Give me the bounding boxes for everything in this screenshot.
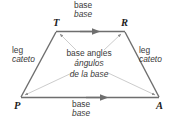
top-base-label-es: base — [74, 10, 92, 19]
base-angles-label: base angles ángulos de la base — [53, 48, 125, 79]
bottom-base-label-es: base — [72, 109, 90, 118]
base-angles-label-es-line1: ángulos — [53, 58, 125, 68]
top-base-label: base base — [74, 1, 92, 18]
right-leg-label: leg cateto — [139, 46, 162, 63]
base-angles-label-es-line2: de la base — [53, 69, 125, 79]
base-angles-label-en: base angles — [53, 48, 125, 58]
vertex-label-A: A — [156, 100, 163, 111]
bottom-base-label: base base — [72, 100, 90, 117]
left-leg-segment-TP — [21, 32, 56, 97]
vertex-label-P: P — [14, 100, 20, 111]
right-leg-label-es: cateto — [139, 55, 162, 64]
left-leg-label-es: cateto — [12, 55, 35, 64]
vertex-label-T: T — [53, 17, 59, 28]
left-leg-label: leg cateto — [12, 46, 35, 63]
vertex-label-R: R — [121, 17, 128, 28]
trapezoid-figure: base base base base leg cateto leg catet… — [0, 0, 177, 128]
right-leg-segment-RA — [125, 32, 159, 97]
